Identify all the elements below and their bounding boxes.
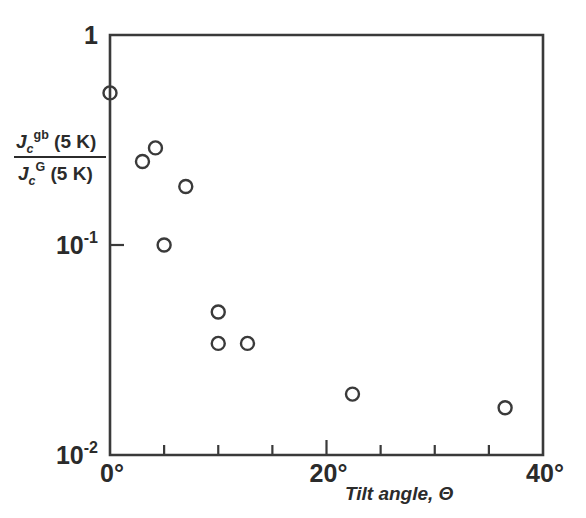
y-tick-label: 10-1 [56, 229, 98, 259]
y-num-symbol: J [16, 131, 27, 152]
x-axis-title: Tilt angle, Θ [345, 483, 454, 504]
y-num-rest: (5 K) [49, 131, 97, 152]
x-tick-label: 20° [310, 459, 348, 487]
data-point-group [104, 86, 512, 414]
x-axis-tick-labels: 0°20°40° [100, 459, 564, 487]
x-axis-ticks [164, 440, 489, 455]
data-point-marker [212, 337, 225, 350]
data-point-marker [346, 388, 359, 401]
plot-frame [110, 35, 543, 455]
y-den-sup: G [36, 160, 46, 174]
y-axis-label-numerator: Jcgb (5 K) [16, 128, 96, 156]
data-point-marker [136, 155, 149, 168]
y-tick-label: 10-2 [56, 439, 98, 469]
y-den-symbol: J [18, 163, 29, 184]
data-point-marker [499, 401, 512, 414]
x-tick-label: 0° [100, 459, 124, 487]
y-num-sup: gb [34, 128, 50, 142]
data-point-marker [158, 239, 171, 252]
scatter-plot-svg: 110-110-2 0°20°40° Jcgb (5 K) JcG (5 K) … [0, 0, 586, 518]
x-tick-label: 40° [526, 459, 564, 487]
data-point-marker [212, 305, 225, 318]
y-axis-tick-labels: 110-110-2 [56, 21, 98, 469]
y-den-rest: (5 K) [45, 163, 93, 184]
chart-figure: 110-110-2 0°20°40° Jcgb (5 K) JcG (5 K) … [0, 0, 586, 518]
data-point-marker [179, 180, 192, 193]
y-den-sub: c [29, 174, 36, 188]
y-axis-label: Jcgb (5 K) JcG (5 K) [14, 128, 106, 188]
y-num-sub: c [27, 142, 34, 156]
y-tick-label: 1 [84, 21, 98, 49]
y-axis-label-denominator: JcG (5 K) [18, 160, 93, 188]
data-point-marker [149, 141, 162, 154]
data-point-marker [241, 337, 254, 350]
